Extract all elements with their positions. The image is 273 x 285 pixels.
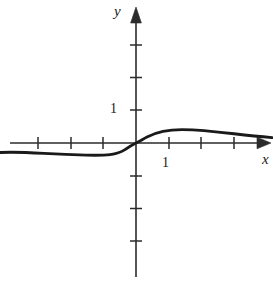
- graph-canvas: [0, 0, 273, 285]
- y-axis-tick-label-1: 1: [110, 102, 117, 116]
- y-axis-label: y: [114, 4, 121, 19]
- x-axis-tick-label-1: 1: [162, 156, 169, 170]
- graph-figure: y x 1 1: [0, 0, 273, 285]
- y-axis-arrow-icon: [131, 7, 142, 23]
- x-axis-label: x: [262, 152, 269, 167]
- x-axis-arrow-icon: [257, 137, 271, 149]
